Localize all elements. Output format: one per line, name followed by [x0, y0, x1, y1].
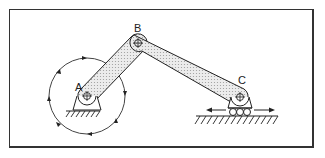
label-b: B — [134, 22, 141, 34]
left-arrowhead-icon — [206, 108, 212, 113]
arrow-icon — [82, 56, 87, 60]
right-arrowhead-icon — [269, 108, 275, 113]
arrow-icon — [47, 96, 51, 101]
arrow-icon — [123, 91, 127, 96]
connecting-rod-link — [130, 35, 248, 106]
fixed-support-a — [66, 96, 101, 117]
slider-block-c — [195, 97, 278, 124]
arrow-icon — [87, 132, 92, 136]
label-c: C — [238, 74, 246, 86]
slider-crank-diagram: A B C — [0, 0, 325, 158]
label-a: A — [75, 81, 83, 93]
